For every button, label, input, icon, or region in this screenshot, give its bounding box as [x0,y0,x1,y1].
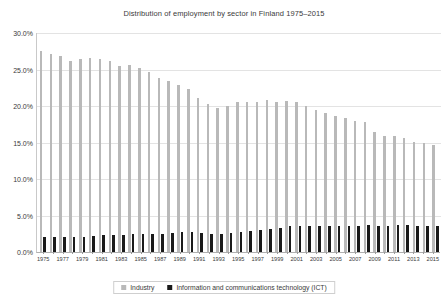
bar-industry[interactable] [226,106,229,252]
bar-ict[interactable] [299,226,302,252]
x-axis-tick [322,254,329,268]
bar-industry[interactable] [128,65,131,252]
bar-ict[interactable] [357,226,360,252]
bar-industry[interactable] [197,98,200,252]
bar-ict[interactable] [269,229,272,252]
bar-industry[interactable] [69,61,72,252]
bar-industry[interactable] [118,66,121,252]
bar-group [332,33,342,252]
bar-ict[interactable] [308,226,311,252]
bars-area [37,33,441,252]
legend-swatch-icon [167,285,172,290]
bar-ict[interactable] [328,226,331,252]
bar-ict[interactable] [318,226,321,252]
bar-ict[interactable] [416,226,419,252]
chart-container: Distribution of employment by sector in … [0,0,448,305]
bar-ict[interactable] [426,226,429,252]
bar-ict[interactable] [259,230,262,252]
bar-industry[interactable] [403,138,406,252]
bar-ict[interactable] [43,237,46,252]
bar-ict[interactable] [132,234,135,252]
bar-ict[interactable] [73,237,76,252]
bar-ict[interactable] [53,237,56,252]
bar-ict[interactable] [220,234,223,252]
x-axis-tick-label: 1981 [96,256,108,262]
bar-industry[interactable] [383,136,386,252]
bar-industry[interactable] [236,102,239,252]
bar-ict[interactable] [406,225,409,252]
bar-ict[interactable] [92,236,95,252]
bar-group [224,33,234,252]
bar-industry[interactable] [295,102,298,252]
x-axis-tick: 2015 [427,254,439,268]
bar-ict[interactable] [338,226,341,252]
bar-industry[interactable] [432,145,435,252]
bar-ict[interactable] [230,233,233,252]
bar-industry[interactable] [207,104,210,252]
bar-ict[interactable] [83,237,86,252]
tick-mark [53,252,54,254]
bar-ict[interactable] [249,231,252,252]
bar-industry[interactable] [266,100,269,252]
bar-industry[interactable] [324,113,327,252]
bar-industry[interactable] [393,136,396,252]
bar-ict[interactable] [171,233,174,252]
bar-industry[interactable] [275,102,278,252]
bar-ict[interactable] [102,235,105,252]
x-axis-tick-label: 1977 [57,256,69,262]
bar-industry[interactable] [167,81,170,252]
bar-industry[interactable] [354,121,357,252]
bar-ict[interactable] [112,235,115,252]
bar-industry[interactable] [256,102,259,252]
bar-industry[interactable] [246,102,249,252]
x-axis-tick-label: 2005 [330,256,342,262]
bar-ict[interactable] [279,228,282,252]
bar-industry[interactable] [40,51,43,252]
bar-ict[interactable] [387,226,390,252]
bar-ict[interactable] [142,234,145,252]
bar-ict[interactable] [240,232,243,252]
bar-industry[interactable] [305,106,308,252]
bar-ict[interactable] [436,226,439,252]
bar-industry[interactable] [89,58,92,252]
legend-item-ict[interactable]: Information and communications technolog… [167,284,326,291]
tick-mark [326,252,327,254]
bar-ict[interactable] [289,226,292,252]
bar-ict[interactable] [367,225,370,252]
bar-industry[interactable] [138,68,141,252]
bar-industry[interactable] [315,110,318,252]
tick-mark [404,252,405,254]
bar-industry[interactable] [187,89,190,252]
bar-industry[interactable] [177,85,180,252]
legend-item-industry[interactable]: Industry [121,284,154,291]
bar-ict[interactable] [397,225,400,252]
bar-industry[interactable] [79,59,82,252]
bar-industry[interactable] [148,72,151,252]
bar-ict[interactable] [348,226,351,252]
bar-industry[interactable] [99,59,102,252]
bar-ict[interactable] [210,234,213,252]
bar-ict[interactable] [377,226,380,252]
bar-industry[interactable] [109,61,112,252]
x-axis-tick-label: 1999 [271,256,283,262]
bar-ict[interactable] [63,237,66,252]
bar-industry[interactable] [59,56,62,252]
bar-ict[interactable] [151,234,154,252]
tick-mark [267,252,268,254]
bar-industry[interactable] [344,118,347,252]
bar-industry[interactable] [373,132,376,252]
bar-industry[interactable] [413,142,416,252]
bar-ict[interactable] [122,235,125,252]
bar-ict[interactable] [191,232,194,252]
bar-ict[interactable] [181,232,184,252]
bar-industry[interactable] [158,78,161,252]
bar-industry[interactable] [50,54,53,252]
bar-industry[interactable] [364,122,367,252]
bar-industry[interactable] [334,116,337,252]
bar-industry[interactable] [423,143,426,252]
bar-industry[interactable] [216,108,219,252]
bar-ict[interactable] [161,234,164,252]
bar-ict[interactable] [200,233,203,252]
bar-industry[interactable] [285,101,288,252]
tick-mark [150,252,151,254]
